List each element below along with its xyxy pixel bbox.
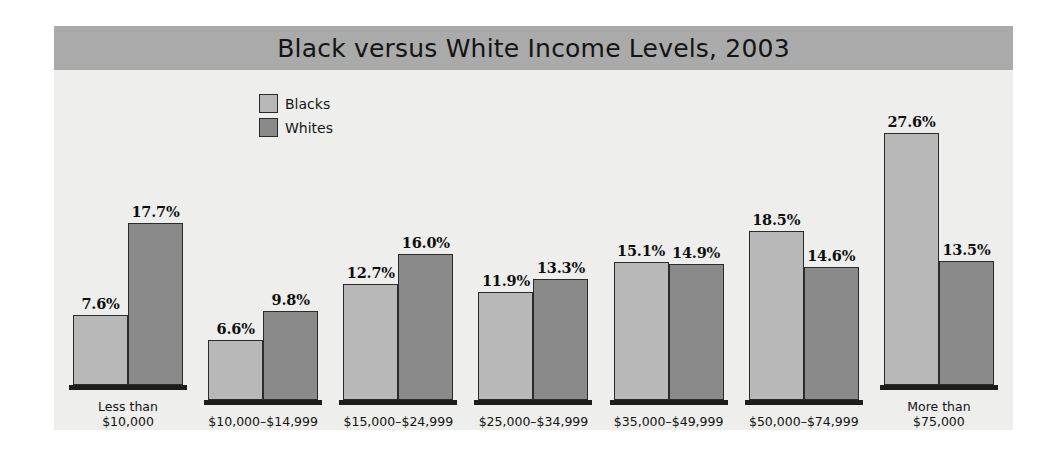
axis-baseline-segment bbox=[880, 385, 998, 390]
bar-value-label: 14.9% bbox=[672, 244, 720, 261]
bar-whites[interactable] bbox=[128, 223, 183, 385]
bar-value-label: 17.7% bbox=[131, 203, 179, 220]
category-label: Less than $10,000 bbox=[98, 399, 158, 430]
bar-blacks[interactable] bbox=[614, 262, 669, 400]
bar-group: 7.6% 17.7% Less than $10,000 bbox=[68, 70, 188, 430]
bar-blacks[interactable] bbox=[73, 315, 128, 384]
bar-group: 11.9% 13.3% $25,000–$34,999 bbox=[473, 70, 593, 430]
plot-area: Blacks Whites 7.6% 17.7% bbox=[54, 70, 1013, 430]
bars-wrap: 12.7% 16.0% bbox=[338, 104, 458, 400]
bar-whites[interactable] bbox=[398, 254, 453, 400]
bar-column-whites[interactable]: 14.9% bbox=[669, 244, 724, 400]
bar-group: 12.7% 16.0% $15,000–$24,999 bbox=[338, 70, 458, 430]
bar-column-whites[interactable]: 9.8% bbox=[263, 291, 318, 401]
bar-value-label: 9.8% bbox=[272, 291, 310, 308]
bar-whites[interactable] bbox=[939, 261, 994, 384]
bar-whites[interactable] bbox=[263, 311, 318, 401]
bar-blacks[interactable] bbox=[884, 133, 939, 385]
bar-groups: 7.6% 17.7% Less than $10,000 6.6% bbox=[54, 70, 1013, 430]
bar-column-blacks[interactable]: 15.1% bbox=[614, 242, 669, 400]
bar-column-blacks[interactable]: 18.5% bbox=[749, 211, 804, 400]
bar-value-label: 18.5% bbox=[752, 211, 800, 228]
bar-column-whites[interactable]: 14.6% bbox=[804, 247, 859, 400]
bar-column-whites[interactable]: 16.0% bbox=[398, 234, 453, 400]
bar-value-label: 13.5% bbox=[942, 241, 990, 258]
axis-baseline-segment bbox=[745, 400, 863, 405]
bar-column-blacks[interactable]: 7.6% bbox=[73, 295, 128, 384]
bar-group: 15.1% 14.9% $35,000–$49,999 bbox=[609, 70, 729, 430]
category-label: $10,000–$14,999 bbox=[208, 414, 318, 430]
page-title: Black versus White Income Levels, 2003 bbox=[277, 34, 790, 63]
bar-whites[interactable] bbox=[533, 279, 588, 400]
bars-wrap: 11.9% 13.3% bbox=[473, 104, 593, 400]
axis-baseline-segment bbox=[69, 385, 187, 390]
bar-value-label: 27.6% bbox=[887, 113, 935, 130]
bar-value-label: 6.6% bbox=[217, 320, 255, 337]
bars-wrap: 27.6% 13.5% bbox=[879, 89, 999, 385]
bars-wrap: 18.5% 14.6% bbox=[744, 104, 864, 400]
bar-value-label: 16.0% bbox=[402, 234, 450, 251]
bar-column-blacks[interactable]: 11.9% bbox=[478, 272, 533, 401]
bar-column-whites[interactable]: 17.7% bbox=[128, 203, 183, 385]
axis-baseline-segment bbox=[610, 400, 728, 405]
chart-title-bar: Black versus White Income Levels, 2003 bbox=[54, 26, 1013, 70]
bars-wrap: 7.6% 17.7% bbox=[68, 89, 188, 385]
category-label: More than $75,000 bbox=[907, 399, 970, 430]
bar-whites[interactable] bbox=[804, 267, 859, 400]
bar-blacks[interactable] bbox=[343, 284, 398, 400]
category-label: $50,000–$74,999 bbox=[749, 414, 859, 430]
bar-whites[interactable] bbox=[669, 264, 724, 400]
axis-baseline-segment bbox=[474, 400, 592, 405]
bar-column-blacks[interactable]: 12.7% bbox=[343, 264, 398, 400]
axis-baseline-segment bbox=[339, 400, 457, 405]
bar-column-whites[interactable]: 13.3% bbox=[533, 259, 588, 400]
bar-value-label: 15.1% bbox=[617, 242, 665, 259]
bar-column-whites[interactable]: 13.5% bbox=[939, 241, 994, 384]
bar-value-label: 14.6% bbox=[807, 247, 855, 264]
bar-column-blacks[interactable]: 27.6% bbox=[884, 113, 939, 385]
chart-figure: Black versus White Income Levels, 2003 B… bbox=[54, 26, 1013, 430]
category-label: $15,000–$24,999 bbox=[343, 414, 453, 430]
bar-group: 27.6% 13.5% More than $75,000 bbox=[879, 70, 999, 430]
bar-blacks[interactable] bbox=[749, 231, 804, 400]
bar-value-label: 7.6% bbox=[81, 295, 119, 312]
category-label: $25,000–$34,999 bbox=[479, 414, 589, 430]
bar-blacks[interactable] bbox=[478, 292, 533, 401]
bars-wrap: 6.6% 9.8% bbox=[203, 104, 323, 400]
bar-value-label: 12.7% bbox=[347, 264, 395, 281]
category-label: $35,000–$49,999 bbox=[614, 414, 724, 430]
bar-blacks[interactable] bbox=[208, 340, 263, 400]
axis-baseline-segment bbox=[204, 400, 322, 405]
bar-group: 18.5% 14.6% $50,000–$74,999 bbox=[744, 70, 864, 430]
bars-wrap: 15.1% 14.9% bbox=[609, 104, 729, 400]
bar-value-label: 11.9% bbox=[482, 272, 530, 289]
bar-group: 6.6% 9.8% $10,000–$14,999 bbox=[203, 70, 323, 430]
bar-column-blacks[interactable]: 6.6% bbox=[208, 320, 263, 400]
bar-value-label: 13.3% bbox=[537, 259, 585, 276]
